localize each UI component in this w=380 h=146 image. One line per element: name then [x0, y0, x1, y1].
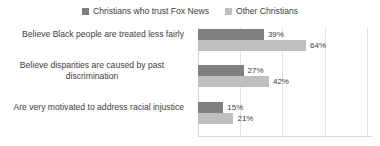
legend-item-christians-who-trust-fox-news: Christians who trust Fox News — [82, 6, 209, 16]
bar-row-2-series-1: 21% — [198, 113, 253, 124]
category-label-2: Are very motivated to address racial inj… — [0, 102, 184, 113]
bar-row-2-series-0: 15% — [198, 102, 243, 113]
bar-row-1-series-0: 27% — [198, 65, 264, 76]
bar-row-1-series-1: 42% — [198, 76, 289, 87]
bar-value-2-series-0: 15% — [227, 103, 243, 112]
plot-area: 39% 64% 27% 42% — [198, 27, 372, 137]
chart-legend: Christians who trust Fox News Other Chri… — [0, 6, 380, 16]
category-label-1: Believe disparities are caused by past d… — [0, 60, 184, 81]
bar-1-series-1 — [198, 76, 269, 87]
bar-0-series-1 — [198, 40, 306, 51]
legend-label-series-0: Christians who trust Fox News — [93, 6, 209, 16]
bar-1-series-0 — [198, 65, 244, 76]
legend-swatch-icon-series-1 — [225, 8, 232, 15]
bar-value-2-series-1: 21% — [237, 114, 253, 123]
category-axis-labels: Believe Black people are treated less fa… — [0, 27, 190, 137]
bar-row-0-series-0: 39% — [198, 29, 284, 40]
bar-0-series-0 — [198, 29, 264, 40]
bar-value-1-series-0: 27% — [248, 66, 264, 75]
legend-swatch-icon-series-0 — [82, 8, 89, 15]
legend-label-series-1: Other Christians — [236, 6, 298, 16]
bar-chart: Christians who trust Fox News Other Chri… — [0, 0, 380, 146]
category-label-0: Believe Black people are treated less fa… — [0, 29, 184, 40]
bar-value-0-series-1: 64% — [310, 41, 326, 50]
bar-groups: 39% 64% 27% 42% — [198, 27, 372, 137]
bar-value-0-series-0: 39% — [268, 30, 284, 39]
category-label-0-line-0: Believe Black people are treated less fa… — [22, 29, 184, 39]
bar-2-series-0 — [198, 102, 223, 113]
bar-row-0-series-1: 64% — [198, 40, 326, 51]
legend-item-other-christians: Other Christians — [225, 6, 298, 16]
bar-value-1-series-1: 42% — [273, 77, 289, 86]
bar-group-0: 39% 64% — [198, 29, 372, 53]
bar-group-2: 15% 21% — [198, 102, 372, 126]
category-label-1-line-1: discrimination — [66, 71, 119, 81]
category-label-1-line-0: Believe disparities are caused by past — [20, 60, 164, 70]
category-label-2-line-0: Are very motivated to address racial inj… — [13, 102, 184, 112]
bar-2-series-1 — [198, 113, 233, 124]
bar-group-1: 27% 42% — [198, 65, 372, 89]
